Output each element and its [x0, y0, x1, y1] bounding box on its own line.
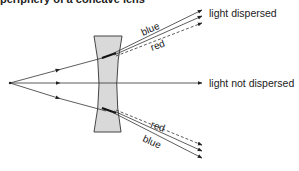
label-lower-red: red — [149, 119, 166, 134]
dispersion-diagram: periphery of a concave lens — [0, 0, 299, 171]
lower-dispersed-rays — [112, 110, 202, 158]
caption-text: periphery of a concave lens — [0, 0, 145, 5]
label-upper-red: red — [149, 38, 166, 53]
diagram-canvas: light dispersed light not dispersed blue… — [0, 0, 299, 171]
incident-rays — [10, 57, 106, 111]
light-source-point — [9, 82, 11, 84]
label-lower-blue: blue — [141, 133, 163, 151]
concave-lens — [94, 36, 122, 132]
label-light-dispersed: light dispersed — [209, 7, 277, 19]
label-light-not-dispersed: light not dispersed — [209, 77, 294, 89]
